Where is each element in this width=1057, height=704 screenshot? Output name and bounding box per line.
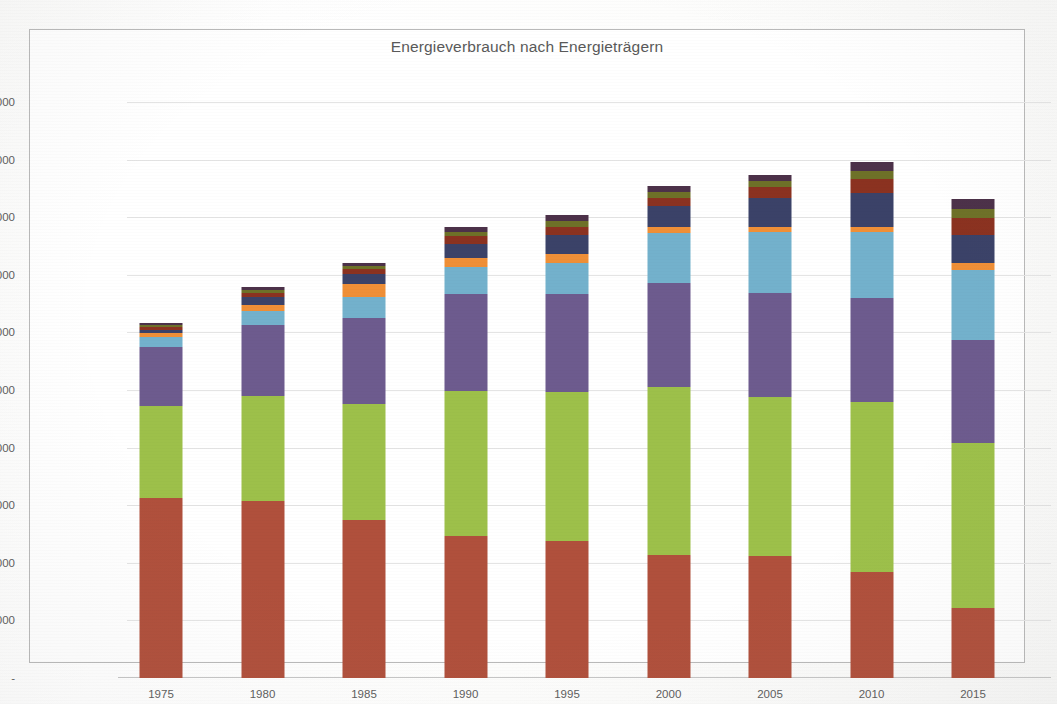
bar-segment[interactable] xyxy=(952,235,995,264)
y-axis-tick-label: 100'000 xyxy=(0,614,15,626)
bar-segment[interactable] xyxy=(546,235,589,253)
bar-segment[interactable] xyxy=(749,293,792,397)
bar-segment[interactable] xyxy=(343,520,386,678)
bar-segment[interactable] xyxy=(850,298,893,402)
bar-segment[interactable] xyxy=(444,258,487,268)
y-axis-tick-label: 700'000 xyxy=(0,269,15,281)
bar-1980[interactable] xyxy=(241,287,284,678)
gridline xyxy=(127,160,1051,161)
bar-segment[interactable] xyxy=(749,198,792,227)
bar-segment[interactable] xyxy=(444,391,487,537)
bar-segment[interactable] xyxy=(749,187,792,198)
bar-segment[interactable] xyxy=(241,297,284,304)
x-axis-tick-label: 2015 xyxy=(923,688,1023,700)
bar-segment[interactable] xyxy=(952,443,995,608)
bar-segment[interactable] xyxy=(647,283,690,387)
x-axis-tick-label: 1975 xyxy=(111,688,211,700)
gridline xyxy=(127,102,1051,103)
y-axis-tick-label: 600'000 xyxy=(0,326,15,338)
bar-segment[interactable] xyxy=(241,325,284,396)
gridline xyxy=(127,275,1051,276)
x-axis-tick-label: 1990 xyxy=(416,688,516,700)
bar-segment[interactable] xyxy=(140,406,183,498)
bar-2015[interactable] xyxy=(952,199,995,678)
y-axis-tick-label: 300'000 xyxy=(0,499,15,511)
y-axis-tick-label: 1'000'000 xyxy=(0,96,15,108)
bar-segment[interactable] xyxy=(546,227,589,235)
bar-segment[interactable] xyxy=(241,311,284,325)
bar-segment[interactable] xyxy=(850,232,893,298)
bar-segment[interactable] xyxy=(444,267,487,293)
x-axis-tick-label: 1995 xyxy=(517,688,617,700)
bar-segment[interactable] xyxy=(241,396,284,501)
bar-1975[interactable] xyxy=(140,323,183,678)
bar-segment[interactable] xyxy=(749,397,792,557)
bar-segment[interactable] xyxy=(850,179,893,193)
bar-segment[interactable] xyxy=(749,232,792,293)
plot-area: 1'000'000900'000800'000700'000600'000500… xyxy=(127,102,1051,678)
bar-segment[interactable] xyxy=(444,294,487,391)
bar-segment[interactable] xyxy=(850,402,893,572)
bar-segment[interactable] xyxy=(952,209,995,219)
bar-segment[interactable] xyxy=(343,274,386,284)
bar-segment[interactable] xyxy=(850,572,893,678)
bar-segment[interactable] xyxy=(647,233,690,283)
bar-segment[interactable] xyxy=(850,193,893,228)
bar-segment[interactable] xyxy=(140,347,183,406)
x-axis-tick-label: 1985 xyxy=(314,688,414,700)
bar-2000[interactable] xyxy=(647,186,690,678)
bar-segment[interactable] xyxy=(546,254,589,263)
bar-segment[interactable] xyxy=(647,387,690,555)
bar-segment[interactable] xyxy=(546,541,589,678)
y-axis-tick-label: 900'000 xyxy=(0,154,15,166)
x-axis-tick-label: 2010 xyxy=(822,688,922,700)
x-axis-tick-label: 1980 xyxy=(213,688,313,700)
bar-1990[interactable] xyxy=(444,227,487,678)
y-axis-tick-label: 800'000 xyxy=(0,211,15,223)
bar-segment[interactable] xyxy=(952,270,995,341)
bar-segment[interactable] xyxy=(140,337,183,347)
bar-2005[interactable] xyxy=(749,175,792,678)
bar-segment[interactable] xyxy=(444,244,487,258)
bar-1985[interactable] xyxy=(343,263,386,678)
bar-segment[interactable] xyxy=(749,556,792,678)
bar-segment[interactable] xyxy=(546,294,589,392)
bar-segment[interactable] xyxy=(850,171,893,179)
page-title: Energieverbrauch nach Energieträgern xyxy=(30,38,1024,56)
bar-segment[interactable] xyxy=(952,608,995,678)
gridline xyxy=(127,217,1051,218)
bar-segment[interactable] xyxy=(241,501,284,678)
bar-segment[interactable] xyxy=(343,297,386,318)
bar-segment[interactable] xyxy=(952,218,995,234)
y-axis-tick-label: - xyxy=(0,672,15,684)
bar-2010[interactable] xyxy=(850,162,893,678)
y-axis-tick-label: 200'000 xyxy=(0,557,15,569)
scanned-page: Energieverbrauch nach Energieträgern 1'0… xyxy=(0,0,1057,704)
bar-segment[interactable] xyxy=(647,198,690,206)
y-axis-tick-label: 500'000 xyxy=(0,384,15,396)
bar-1995[interactable] xyxy=(546,215,589,678)
bar-segment[interactable] xyxy=(140,498,183,678)
x-axis-tick-label: 2005 xyxy=(720,688,820,700)
bar-segment[interactable] xyxy=(343,284,386,297)
bar-segment[interactable] xyxy=(647,555,690,678)
bar-segment[interactable] xyxy=(343,404,386,520)
bar-segment[interactable] xyxy=(546,263,589,294)
bar-segment[interactable] xyxy=(444,536,487,678)
bar-segment[interactable] xyxy=(444,236,487,243)
bar-segment[interactable] xyxy=(952,199,995,209)
bar-segment[interactable] xyxy=(343,318,386,404)
bar-segment[interactable] xyxy=(546,392,589,541)
chart-frame: Energieverbrauch nach Energieträgern 1'0… xyxy=(29,29,1025,663)
y-axis-tick-label: 400'000 xyxy=(0,442,15,454)
x-axis-tick-label: 2000 xyxy=(619,688,719,700)
bar-segment[interactable] xyxy=(952,340,995,443)
bar-segment[interactable] xyxy=(647,206,690,227)
bar-segment[interactable] xyxy=(850,162,893,171)
